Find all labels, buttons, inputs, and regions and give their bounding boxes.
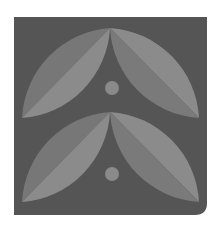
leaf-logo-graphic [0, 0, 223, 227]
dot-top [105, 81, 119, 95]
dot-bottom [105, 167, 119, 181]
logo-canvas [0, 0, 223, 227]
